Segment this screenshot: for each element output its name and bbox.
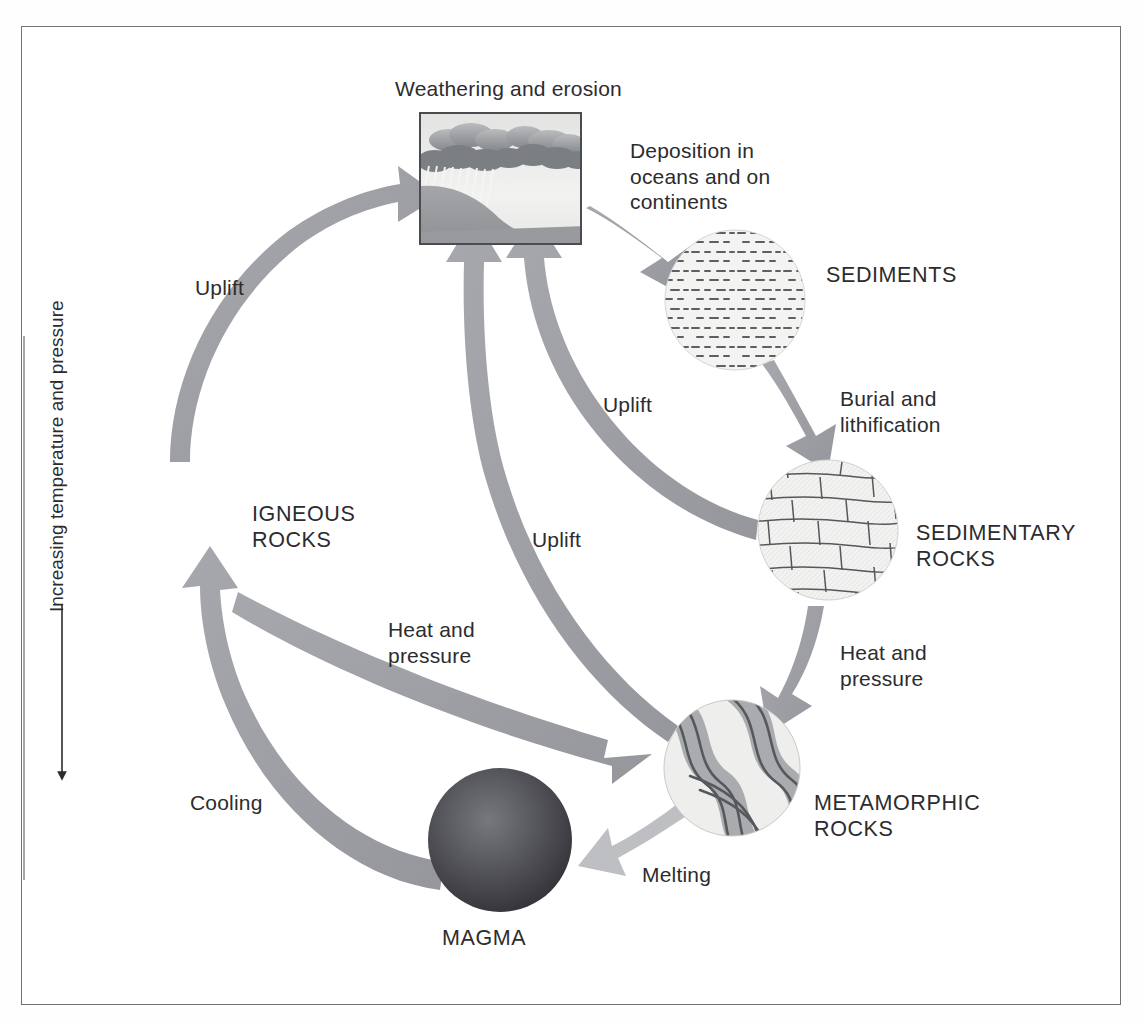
label-igneous-rocks: IGNEOUS ROCKS xyxy=(252,501,355,553)
label-metamorphic-rocks: METAMORPHIC ROCKS xyxy=(814,790,980,842)
weathering-illustration xyxy=(419,112,582,245)
label-heat-and-pressure-left: Heat and pressure xyxy=(388,617,475,668)
label-burial-and-lithification: Burial and lithification xyxy=(840,386,941,437)
rain-cloud-hillside-icon xyxy=(421,114,582,245)
label-heat-and-pressure-right: Heat and pressure xyxy=(840,640,927,691)
label-uplift-metamorphic: Uplift xyxy=(532,527,581,553)
label-sedimentary-rocks: SEDIMENTARY ROCKS xyxy=(916,520,1076,572)
label-deposition: Deposition in oceans and on continents xyxy=(630,138,770,215)
label-cooling: Cooling xyxy=(190,790,263,816)
label-magma: MAGMA xyxy=(442,925,526,951)
label-sediments: SEDIMENTS xyxy=(826,262,957,288)
label-uplift-sedimentary: Uplift xyxy=(603,392,652,418)
rock-cycle-figure: Weathering and erosion Deposition in oce… xyxy=(0,0,1144,1024)
axis-label-temperature-pressure: Increasing temperature and pressure xyxy=(46,300,68,612)
label-melting: Melting xyxy=(642,862,711,888)
label-weathering-and-erosion: Weathering and erosion xyxy=(395,76,622,102)
label-uplift-igneous: Uplift xyxy=(195,275,244,301)
